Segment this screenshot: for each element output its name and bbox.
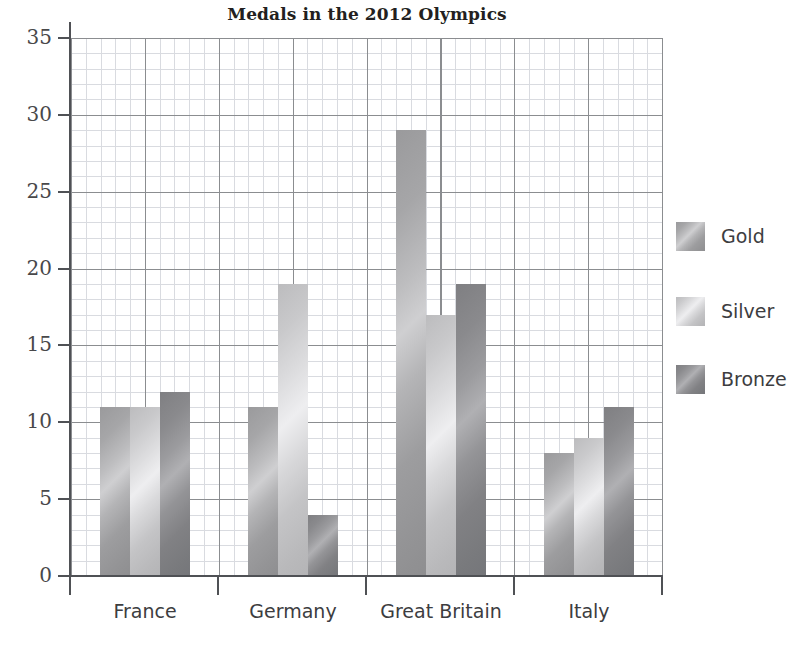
y-axis-tick [58, 421, 69, 423]
legend-swatch-gold-icon [676, 222, 705, 251]
bar-germany-bronze [308, 515, 338, 576]
y-axis-tick [58, 191, 69, 193]
y-axis-tick-label: 35 [4, 27, 52, 47]
y-axis-tick [58, 498, 69, 500]
chart-title: Medals in the 2012 Olympics [70, 4, 664, 24]
bar-italy-silver [574, 438, 604, 576]
bar-germany-gold [248, 407, 278, 576]
y-axis-tick-label: 25 [4, 181, 52, 201]
plot-area [71, 38, 663, 576]
y-axis-tick [58, 37, 69, 39]
legend-label: Gold [721, 223, 765, 250]
x-axis-category-label: Germany [219, 600, 367, 622]
y-axis-tick-label: 15 [4, 334, 52, 354]
bar-italy-bronze [604, 407, 634, 576]
y-axis-line [69, 22, 71, 576]
bar-italy-gold [544, 453, 574, 576]
x-axis-tick [69, 577, 71, 595]
bar-great-britain-gold [396, 130, 426, 576]
legend-label: Silver [721, 298, 774, 325]
legend-label: Bronze [721, 366, 787, 393]
y-axis-tick [58, 344, 69, 346]
bar-great-britain-silver [426, 315, 456, 576]
x-axis-category-label: Italy [515, 600, 663, 622]
y-axis-tick-label: 30 [4, 104, 52, 124]
y-axis-tick [58, 268, 69, 270]
bar-france-gold [100, 407, 130, 576]
x-axis-category-label: Great Britain [367, 600, 515, 622]
bar-france-bronze [160, 392, 190, 576]
x-axis-tick [365, 577, 367, 595]
legend-swatch-silver-icon [676, 297, 705, 326]
x-axis-category-label: France [71, 600, 219, 622]
legend-swatch-bronze-icon [676, 365, 705, 394]
y-axis-tick-label: 10 [4, 411, 52, 431]
y-axis-tick [58, 575, 69, 577]
y-axis-tick-label: 0 [4, 565, 52, 585]
y-axis-tick-label: 5 [4, 488, 52, 508]
x-axis-tick [661, 577, 663, 595]
bar-chart-figure: Medals in the 2012 Olympics 051015202530… [0, 0, 808, 657]
bar-germany-silver [278, 284, 308, 576]
y-axis-tick-label: 20 [4, 258, 52, 278]
x-axis-tick [217, 577, 219, 595]
bar-france-silver [130, 407, 160, 576]
y-axis-tick [58, 114, 69, 116]
bar-great-britain-bronze [456, 284, 486, 576]
x-axis-tick [513, 577, 515, 595]
